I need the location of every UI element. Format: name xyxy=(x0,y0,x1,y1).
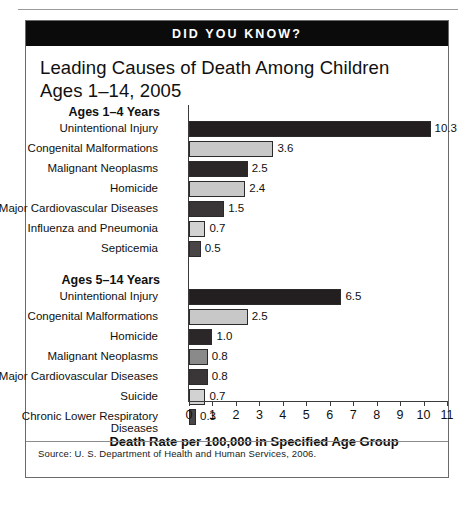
bar-value-label: 0.7 xyxy=(209,222,225,234)
page-title: Leading Causes of Death Among Children A… xyxy=(40,57,436,103)
bar-row: Unintentional Injury10.3 xyxy=(38,120,436,140)
banner-label: DID YOU KNOW? xyxy=(172,27,302,41)
group-spacer xyxy=(38,260,436,273)
did-you-know-card: DID YOU KNOW? Leading Causes of Death Am… xyxy=(25,20,449,478)
bar-row: Homicide2.4 xyxy=(38,180,436,200)
group-heading: Ages 5–14 Years xyxy=(38,273,436,288)
bar-category-label: Congenital Malformations xyxy=(28,142,158,155)
x-axis-tick-label: 5 xyxy=(303,408,310,422)
bar-row: Malignant Neoplasms0.8 xyxy=(38,348,436,368)
banner: DID YOU KNOW? xyxy=(26,21,448,46)
group-heading-label: Ages 1–4 Years xyxy=(68,105,160,119)
x-axis-line xyxy=(188,401,447,402)
bar-category-label: Influenza and Pneumonia xyxy=(28,222,158,235)
x-axis-tick-label: 7 xyxy=(350,408,357,422)
bar-category-label: Homicide xyxy=(110,182,158,195)
bar xyxy=(189,161,248,177)
bar-row: Congenital Malformations3.6 xyxy=(38,140,436,160)
source-note: Source: U. S. Department of Health and H… xyxy=(38,448,316,459)
x-axis-tick xyxy=(212,401,213,406)
x-axis-tick-label: 1 xyxy=(209,408,216,422)
x-axis-tick-label: 9 xyxy=(397,408,404,422)
x-axis-tick-label: 8 xyxy=(373,408,380,422)
bar xyxy=(189,349,208,365)
group-heading-label: Ages 5–14 Years xyxy=(62,273,160,287)
bar xyxy=(189,141,273,157)
bar xyxy=(189,201,224,217)
bar-value-label: 0.5 xyxy=(205,242,221,254)
x-axis-tick-label: 0 xyxy=(186,408,193,422)
x-axis-tick-label: 3 xyxy=(256,408,263,422)
bar-category-label: Congenital Malformations xyxy=(28,310,158,323)
bar-value-label: 1.0 xyxy=(216,330,232,342)
x-axis-tick-label: 4 xyxy=(279,408,286,422)
bar xyxy=(189,241,201,257)
x-axis-tick xyxy=(306,401,307,406)
bar xyxy=(189,121,431,137)
x-axis-tick-label: 2 xyxy=(232,408,239,422)
scan-artifact-rule xyxy=(18,9,458,10)
bar-category-label: Malignant Neoplasms xyxy=(47,162,158,175)
bar-value-label: 0.8 xyxy=(212,370,228,382)
x-axis-tick xyxy=(283,401,284,406)
bar-row: Congenital Malformations2.5 xyxy=(38,308,436,328)
bar-row: Major Cardiovascular Diseases0.8 xyxy=(38,368,436,388)
bar-category-label: Unintentional Injury xyxy=(60,290,158,303)
footer-divider xyxy=(26,441,448,442)
bar-row: Homicide1.0 xyxy=(38,328,436,348)
bar xyxy=(189,309,248,325)
bar xyxy=(189,329,212,345)
x-axis-tick xyxy=(400,401,401,406)
bar-row: Malignant Neoplasms2.5 xyxy=(38,160,436,180)
x-axis-tick xyxy=(353,401,354,406)
chart-plot-area: Ages 1–4 YearsUnintentional Injury10.3Co… xyxy=(38,105,436,401)
bar-row: Influenza and Pneumonia0.7 xyxy=(38,220,436,240)
x-axis-tick xyxy=(377,401,378,406)
bar-category-label: Unintentional Injury xyxy=(60,122,158,135)
bar-row: Unintentional Injury6.5 xyxy=(38,288,436,308)
bar-category-label: Septicemia xyxy=(101,242,158,255)
bar-value-label: 6.5 xyxy=(345,290,361,302)
x-axis: 01234567891011 xyxy=(38,401,436,431)
x-axis-tick xyxy=(424,401,425,406)
x-axis-tick xyxy=(236,401,237,406)
x-axis-tick xyxy=(259,401,260,406)
bar-value-label: 1.5 xyxy=(228,202,244,214)
x-axis-tick xyxy=(330,401,331,406)
card-body: Leading Causes of Death Among Children A… xyxy=(26,46,448,450)
bar xyxy=(189,221,205,237)
bar-row: Septicemia0.5 xyxy=(38,240,436,260)
bar-value-label: 3.6 xyxy=(277,142,293,154)
x-axis-tick xyxy=(447,401,448,406)
bar xyxy=(189,289,341,305)
x-axis-tick-label: 11 xyxy=(441,408,454,422)
bar-category-label: Major Cardiovascular Diseases xyxy=(0,202,158,215)
x-axis-tick xyxy=(189,401,190,406)
x-axis-tick-label: 10 xyxy=(417,408,431,422)
bar-category-label: Malignant Neoplasms xyxy=(47,350,158,363)
bar-value-label: 2.4 xyxy=(249,182,265,194)
bar-value-label: 0.8 xyxy=(212,350,228,362)
bar-category-label: Major Cardiovascular Diseases xyxy=(0,370,158,383)
bar-value-label: 2.5 xyxy=(252,310,268,322)
x-axis-tick-label: 6 xyxy=(326,408,333,422)
group-heading: Ages 1–4 Years xyxy=(38,105,436,120)
bar-value-label: 10.3 xyxy=(435,122,457,134)
bar-value-label: 2.5 xyxy=(252,162,268,174)
bar xyxy=(189,181,245,197)
bar xyxy=(189,369,208,385)
bar-category-label: Homicide xyxy=(110,330,158,343)
bar-row: Major Cardiovascular Diseases1.5 xyxy=(38,200,436,220)
